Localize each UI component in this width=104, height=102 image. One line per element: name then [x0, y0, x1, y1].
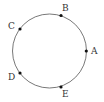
point-label: A	[90, 46, 98, 56]
point-label: B	[62, 3, 69, 13]
point-e: E	[59, 85, 68, 99]
point-marker	[18, 27, 21, 30]
point-b: B	[59, 3, 69, 17]
point-marker	[18, 71, 21, 74]
points-layer: ABCDE	[8, 3, 98, 99]
diagram-canvas: ABCDE	[0, 0, 104, 102]
circle	[13, 14, 87, 88]
circle-diagram: ABCDE	[0, 0, 104, 102]
point-label: C	[8, 21, 15, 31]
point-d: D	[8, 71, 22, 82]
point-label: E	[62, 89, 69, 99]
point-label: D	[8, 72, 15, 82]
point-c: C	[8, 21, 22, 31]
point-marker	[59, 14, 62, 17]
point-marker	[85, 49, 88, 52]
